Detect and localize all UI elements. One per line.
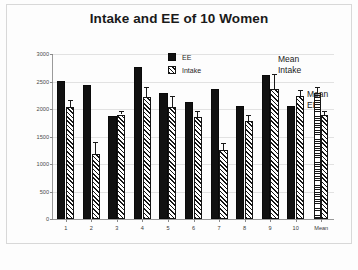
x-axis-tick xyxy=(142,219,143,222)
error-bar-cap xyxy=(170,96,175,97)
x-axis-tick-label: 6 xyxy=(192,225,195,231)
y-axis-tick-label: 0 xyxy=(46,216,49,222)
error-bar xyxy=(70,100,71,107)
error-bar-cap xyxy=(298,90,303,91)
bar-intake-1 xyxy=(66,107,74,219)
bar-ee-5 xyxy=(159,93,167,220)
error-bar xyxy=(172,96,173,107)
bar-intake-8 xyxy=(245,121,253,219)
bar-ee-3 xyxy=(108,116,116,219)
x-axis-tick-label: 5 xyxy=(166,225,169,231)
legend-item-ee: EE xyxy=(168,53,201,61)
diagonal-hatch-swatch-icon xyxy=(168,66,176,74)
bar-intake-6 xyxy=(194,117,202,219)
x-axis-tick xyxy=(296,219,297,222)
chart-legend: EE Intake xyxy=(168,53,201,79)
bar-intake-5 xyxy=(168,107,176,219)
x-axis-tick-label: 1 xyxy=(64,225,67,231)
x-axis-tick xyxy=(91,219,92,222)
error-bar-cap xyxy=(93,142,98,143)
x-axis-tick-label: 7 xyxy=(217,225,220,231)
legend-label-ee: EE xyxy=(182,54,191,61)
error-bar-cap xyxy=(221,143,226,144)
x-axis-tick-label: 3 xyxy=(115,225,118,231)
error-bar xyxy=(146,87,147,97)
x-axis-tick xyxy=(245,219,246,222)
error-bar-cap xyxy=(322,111,327,112)
x-axis-tick-label: 2 xyxy=(90,225,93,231)
y-axis-tick-label: 1500 xyxy=(37,134,49,140)
error-bar-cap xyxy=(272,74,277,75)
bar-ee-4 xyxy=(134,67,142,219)
x-axis-tick xyxy=(194,219,195,222)
gridline xyxy=(53,82,334,83)
y-axis-tick-label: 1000 xyxy=(37,161,49,167)
bar-ee-6 xyxy=(185,102,193,219)
chart-figure: Intake and EE of 10 Women 05001000150020… xyxy=(0,0,358,270)
error-bar-cap xyxy=(144,87,149,88)
y-axis-tick xyxy=(50,164,53,165)
x-axis-tick xyxy=(117,219,118,222)
x-axis-tick-label: 10 xyxy=(293,225,299,231)
y-axis-tick xyxy=(50,192,53,193)
bar-ee-10 xyxy=(287,106,295,219)
bar-intake-4 xyxy=(143,97,151,219)
y-axis-tick xyxy=(50,137,53,138)
y-axis-tick-label: 500 xyxy=(40,189,49,195)
annotation-mean-ee-line1: Mean xyxy=(307,89,328,100)
legend-label-intake: Intake xyxy=(182,67,201,74)
error-bar-cap xyxy=(119,111,124,112)
bar-ee-9 xyxy=(262,75,270,219)
x-axis-tick xyxy=(66,219,67,222)
x-axis-tick-label: 8 xyxy=(243,225,246,231)
bar-intake-9 xyxy=(270,89,278,219)
x-axis-tick xyxy=(219,219,220,222)
bar-intake-2 xyxy=(92,154,100,219)
error-bar-cap xyxy=(68,100,73,101)
x-axis-tick xyxy=(168,219,169,222)
legend-item-intake: Intake xyxy=(168,66,201,74)
x-axis-tick-label: Mean xyxy=(314,225,328,231)
annotation-mean-ee-line2: EE xyxy=(307,100,328,111)
bar-intake-3 xyxy=(117,115,125,220)
bar-ee-2 xyxy=(83,85,91,219)
y-axis-tick xyxy=(50,109,53,110)
x-axis-tick xyxy=(270,219,271,222)
bar-intake-10 xyxy=(296,96,304,219)
x-axis-tick-label: 4 xyxy=(141,225,144,231)
x-axis-tick-label: 9 xyxy=(269,225,272,231)
annotation-mean-intake: Mean Intake xyxy=(278,54,301,75)
error-bar xyxy=(223,143,224,150)
error-bar-cap xyxy=(195,111,200,112)
bar-ee-1 xyxy=(57,81,65,219)
x-axis-tick xyxy=(321,219,322,222)
error-bar xyxy=(274,74,275,89)
annotation-mean-intake-line1: Mean xyxy=(278,54,301,65)
bar-mean-ee xyxy=(321,115,328,219)
solid-black-swatch-icon xyxy=(168,53,176,61)
bar-ee-7 xyxy=(211,89,219,219)
y-axis-tick xyxy=(50,82,53,83)
bar-intake-7 xyxy=(219,150,227,219)
bar-mean-intake xyxy=(314,93,321,220)
y-axis-tick xyxy=(50,54,53,55)
y-axis-tick xyxy=(50,219,53,220)
y-axis-tick-label: 2000 xyxy=(37,106,49,112)
bar-ee-8 xyxy=(236,106,244,219)
y-axis-tick-label: 2500 xyxy=(37,79,49,85)
error-bar xyxy=(95,142,96,154)
page-title: Intake and EE of 10 Women xyxy=(0,11,358,26)
error-bar-cap xyxy=(246,115,251,116)
y-axis-tick-label: 3000 xyxy=(37,51,49,57)
annotation-mean-intake-line2: Intake xyxy=(278,65,301,76)
error-bar-cap xyxy=(315,87,320,88)
annotation-mean-ee: Mean EE xyxy=(307,89,328,110)
